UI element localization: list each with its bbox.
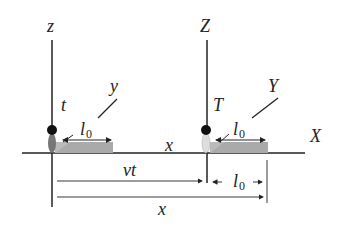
clock-ball-right xyxy=(201,125,211,135)
t-label: t xyxy=(61,95,67,115)
z-axis-label: z xyxy=(46,16,54,36)
observer-left xyxy=(48,133,56,153)
l0-dimension-subscript: 0 xyxy=(239,179,245,193)
T-label: T xyxy=(213,95,225,115)
vt-label: vt xyxy=(123,160,137,180)
x-dimension-label: x xyxy=(157,199,166,219)
X-axis-label: X xyxy=(309,126,322,146)
l0-dimension-label: l xyxy=(233,171,238,191)
y-axis-line xyxy=(98,99,117,118)
l0-label-left: l xyxy=(80,119,85,139)
x-axis-label: x xyxy=(164,135,173,155)
y-axis-label: y xyxy=(108,76,118,96)
l0-subscript-right: 0 xyxy=(239,127,245,141)
observer-right xyxy=(202,133,210,153)
relativity-diagram: z Z y Y t T X x l 0 l 0 vt l 0 x xyxy=(0,0,339,228)
Y-axis-label: Y xyxy=(268,76,280,96)
Z-axis-label: Z xyxy=(200,16,211,36)
l0-label-right: l xyxy=(233,119,238,139)
clock-ball-left xyxy=(47,125,57,135)
Y-axis-line xyxy=(252,98,278,118)
l0-subscript-left: 0 xyxy=(86,127,92,141)
